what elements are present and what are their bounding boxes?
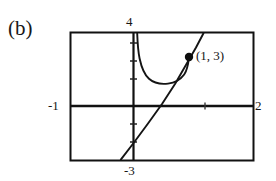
viewing-window-frame	[71, 33, 254, 161]
curve-branch	[137, 34, 189, 84]
figure-panel: (b) 4 -1 2 -3 (1, 3)	[0, 0, 276, 181]
marked-point	[185, 53, 193, 61]
graph-plot	[0, 0, 276, 181]
